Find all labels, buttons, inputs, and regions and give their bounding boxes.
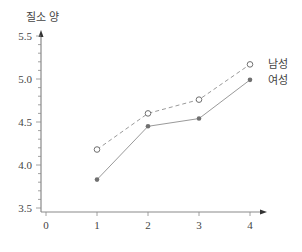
data-point-filled xyxy=(95,177,100,182)
data-point-open xyxy=(94,147,100,153)
data-series xyxy=(94,62,253,182)
y-axis-ticks: 3.54.04.55.05.5 xyxy=(18,30,41,214)
x-axis-arrow-icon xyxy=(260,210,267,215)
legend: 남성여성 xyxy=(268,58,288,86)
axes xyxy=(39,30,268,215)
y-tick-label: 5.0 xyxy=(18,73,32,85)
data-point-filled xyxy=(248,78,253,83)
series-line-female xyxy=(97,80,250,180)
data-point-filled xyxy=(146,124,151,129)
x-tick-label: 3 xyxy=(196,219,202,231)
y-tick-label: 4.0 xyxy=(18,159,32,171)
line-chart: 질소 양 3.54.04.55.05.5 01234 남성여성 xyxy=(0,0,302,252)
data-point-filled xyxy=(197,116,202,121)
data-point-open xyxy=(247,62,253,68)
y-tick-label: 3.5 xyxy=(18,202,32,214)
y-tick-label: 4.5 xyxy=(18,116,32,128)
data-point-open xyxy=(196,97,202,103)
x-tick-label: 4 xyxy=(247,219,253,231)
y-tick-label: 5.5 xyxy=(18,30,32,42)
x-tick-label: 1 xyxy=(94,219,100,231)
x-axis-ticks: 01234 xyxy=(43,212,253,231)
x-tick-label: 2 xyxy=(145,219,151,231)
data-point-open xyxy=(145,111,151,117)
legend-label-male: 남성 xyxy=(268,58,288,71)
y-axis-title: 질소 양 xyxy=(26,11,60,24)
x-tick-label: 0 xyxy=(43,219,49,231)
series-line-male xyxy=(97,64,250,149)
legend-label-female: 여성 xyxy=(268,74,288,87)
